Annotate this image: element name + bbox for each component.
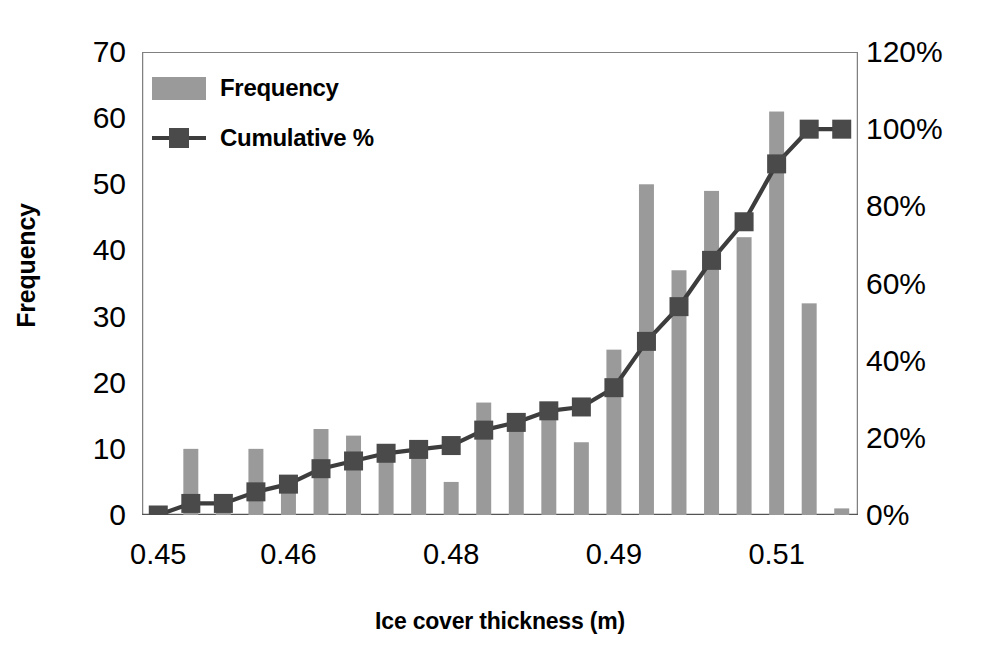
y-axis-right-ticks: 0%20%40%60%80%100%120% xyxy=(866,0,994,670)
y-axis-left-tick-label: 50 xyxy=(26,169,126,199)
line-marker-swatch-icon xyxy=(152,127,206,150)
cumulative-marker xyxy=(246,482,265,501)
pareto-chart: Frequency 010203040506070 0%20%40%60%80%… xyxy=(0,0,994,670)
chart-legend: Frequency Cumulative % xyxy=(152,66,452,166)
cumulative-marker xyxy=(702,251,721,270)
x-axis-title: Ice cover thickness (m) xyxy=(140,608,860,635)
bar xyxy=(704,191,719,515)
cumulative-marker xyxy=(409,440,428,459)
cumulative-marker xyxy=(312,459,331,478)
y-axis-right-tick-label: 80% xyxy=(866,191,994,221)
cumulative-marker xyxy=(279,475,298,494)
bar xyxy=(248,449,263,515)
cumulative-marker xyxy=(767,154,786,173)
y-axis-left-tick-label: 40 xyxy=(26,235,126,265)
cumulative-marker xyxy=(735,212,754,231)
legend-square-marker-icon xyxy=(169,128,189,148)
x-axis-tick-label: 0.45 xyxy=(130,540,186,569)
y-axis-right-tick-label: 60% xyxy=(866,269,994,299)
y-axis-title: Frequency xyxy=(6,0,46,530)
cumulative-marker xyxy=(442,436,461,455)
cumulative-marker xyxy=(670,297,689,316)
cumulative-marker xyxy=(539,401,558,420)
legend-item-frequency: Frequency xyxy=(152,66,452,110)
cumulative-marker xyxy=(604,378,623,397)
y-axis-left-tick-label: 0 xyxy=(26,500,126,530)
bar xyxy=(444,482,459,515)
bar xyxy=(606,350,621,515)
legend-label-cumulative: Cumulative % xyxy=(220,124,374,152)
cumulative-marker xyxy=(800,120,819,139)
y-axis-title-text: Frequency xyxy=(12,203,41,328)
cumulative-marker xyxy=(149,506,168,516)
y-axis-right-tick-label: 120% xyxy=(866,37,994,67)
bar xyxy=(802,303,817,515)
y-axis-left-tick-label: 20 xyxy=(26,368,126,398)
x-axis-tick-label: 0.51 xyxy=(748,540,804,569)
cumulative-marker xyxy=(214,494,233,513)
bar xyxy=(346,436,361,515)
cumulative-marker xyxy=(474,421,493,440)
y-axis-right-tick-label: 100% xyxy=(866,114,994,144)
legend-label-frequency: Frequency xyxy=(220,74,339,102)
y-axis-left-ticks: 010203040506070 xyxy=(18,0,126,670)
cumulative-marker xyxy=(344,451,363,470)
cumulative-marker xyxy=(507,413,526,432)
y-axis-left-tick-label: 30 xyxy=(26,302,126,332)
bar xyxy=(834,508,849,515)
y-axis-left-tick-label: 10 xyxy=(26,434,126,464)
cumulative-marker xyxy=(832,120,851,139)
y-axis-right-tick-label: 0% xyxy=(866,500,994,530)
x-axis-tick-label: 0.46 xyxy=(260,540,316,569)
bar xyxy=(737,237,752,515)
cumulative-marker xyxy=(637,332,656,351)
bar-swatch-icon xyxy=(152,77,206,100)
legend-item-cumulative: Cumulative % xyxy=(152,116,452,160)
bar xyxy=(541,409,556,515)
y-axis-left-tick-label: 60 xyxy=(26,103,126,133)
y-axis-left-tick-label: 70 xyxy=(26,37,126,67)
y-axis-right-tick-label: 40% xyxy=(866,346,994,376)
cumulative-marker xyxy=(572,397,591,416)
x-axis-tick-label: 0.49 xyxy=(586,540,642,569)
x-axis-tick-label: 0.48 xyxy=(423,540,479,569)
y-axis-right-tick-label: 20% xyxy=(866,423,994,453)
cumulative-marker xyxy=(377,444,396,463)
cumulative-marker xyxy=(181,494,200,513)
bar xyxy=(476,403,491,515)
bar xyxy=(574,442,589,515)
